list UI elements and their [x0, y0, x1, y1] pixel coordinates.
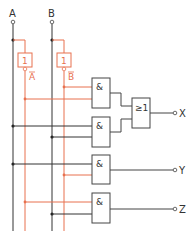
or-symbol: ≥1 [135, 103, 148, 113]
input-a-label: A [9, 8, 16, 19]
and1-symbol: & [96, 82, 103, 92]
not-b-label: B [68, 72, 74, 82]
not-b-input-wire [52, 40, 64, 53]
output-x-label: X [179, 108, 186, 119]
not-a-symbol: 1 [22, 56, 28, 66]
input-b-label: B [48, 8, 55, 19]
input-b-terminal [50, 20, 54, 24]
not-a-label: A [29, 72, 36, 82]
output-y-label: Y [178, 165, 186, 176]
and2-to-or-wire [110, 119, 132, 132]
logic-circuit-diagram: A B 1 A 1 B & & ≥1 X & Y [0, 0, 194, 238]
not-b-bubble [62, 67, 66, 71]
and2-symbol: & [96, 121, 103, 131]
and3-symbol: & [96, 159, 103, 169]
and1-to-or-wire [110, 93, 132, 106]
not-a-input-wire [13, 40, 25, 53]
output-y-terminal [173, 168, 177, 172]
input-a-terminal [11, 20, 15, 24]
output-z-label: Z [179, 204, 186, 215]
output-z-terminal [173, 207, 177, 211]
not-b-symbol: 1 [61, 56, 67, 66]
and4-symbol: & [96, 197, 103, 207]
output-x-terminal [173, 111, 177, 115]
not-a-bubble [23, 67, 27, 71]
